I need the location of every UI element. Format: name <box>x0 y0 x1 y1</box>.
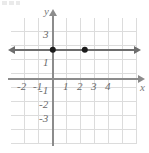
y-axis-label: y <box>44 6 49 17</box>
plot-line-arrow-right-icon <box>134 46 141 54</box>
x-tick-label: 3 <box>91 81 97 92</box>
coordinate-plane-figure: -2-1123431-1-2-3 y x <box>0 0 149 153</box>
y-tick-label: -1 <box>39 85 48 96</box>
x-axis <box>8 78 140 80</box>
y-axis <box>52 14 54 146</box>
x-axis-label: x <box>140 82 145 93</box>
scan-artifact <box>2 1 20 5</box>
plot-line-y-equals-2 <box>15 49 135 51</box>
x-tick-label: -2 <box>17 81 26 92</box>
x-tick-label: 2 <box>77 81 83 92</box>
grid-lines <box>11 18 137 144</box>
y-tick-label: -2 <box>39 99 48 110</box>
x-tick-label: 1 <box>63 81 69 92</box>
plot-line-arrow-left-icon <box>8 46 15 54</box>
y-tick-label: 1 <box>43 57 49 68</box>
y-tick-label: 3 <box>43 29 49 40</box>
x-tick-label: 4 <box>105 81 111 92</box>
y-axis-arrow-icon <box>49 9 57 16</box>
y-tick-label: -3 <box>39 113 48 124</box>
